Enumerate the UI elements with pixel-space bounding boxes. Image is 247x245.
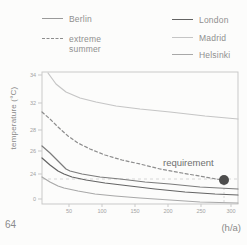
figure-page: Berlin extreme summer London Madrid Hels… [0,0,247,245]
x-tick-label: 50 [66,208,72,214]
page-number: 64 [5,219,16,230]
x-tick-label: 100 [97,208,106,214]
y-tick-label: 32 [30,100,36,106]
temperature-exceedance-chart: 3432282624050100150200250300requirementt… [0,0,247,245]
madrid-line [48,73,238,119]
requirement-label: requirement [163,157,214,168]
y-tick-label: 24 [30,171,36,177]
x-axis-label: (h/a) [221,222,241,233]
y-axis-label: temperature (°C) [9,86,18,149]
requirement-dot [219,175,229,185]
extreme-line [42,112,222,180]
x-tick-label: 150 [130,208,139,214]
y-tick-label: 34 [30,72,36,78]
y-tick-label: 26 [30,148,36,154]
x-tick-label: 300 [226,208,235,214]
x-tick-label: 250 [196,208,205,214]
y-tick-label: 28 [30,127,36,133]
x-tick-label: 200 [163,208,172,214]
y-tick-label: 0 [33,196,36,202]
